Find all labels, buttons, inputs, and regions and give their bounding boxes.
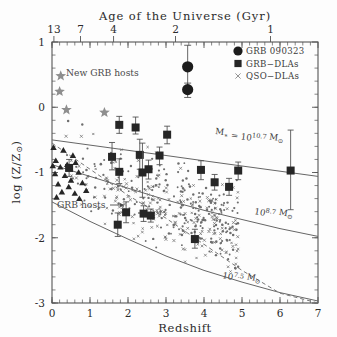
qso-dla-point	[190, 232, 192, 234]
top-tick-label: 1	[267, 23, 274, 35]
qso-dla-point	[218, 213, 220, 215]
qso-dla-point	[177, 186, 179, 188]
qso-dla-point	[137, 176, 139, 178]
qso-dla-point	[66, 154, 68, 156]
qso-dla-point	[123, 198, 125, 200]
x-tick-label: 2	[125, 307, 132, 319]
qso-dla-point	[235, 223, 237, 225]
qso-dla-point	[163, 168, 165, 170]
qso-dla-point	[160, 226, 162, 228]
y-tick-label: -2	[35, 232, 45, 244]
qso-dla-point	[151, 198, 153, 200]
qso-dla-point	[220, 212, 222, 214]
qso-dla-point	[227, 223, 229, 225]
qso-dla-point	[211, 209, 213, 211]
grb-dla-marker	[140, 210, 148, 218]
qso-dla-point	[201, 238, 203, 240]
qso-dla-point	[214, 202, 217, 205]
qso-dla-point	[233, 207, 235, 209]
qso-dla-point	[195, 224, 197, 226]
qso-dla-point	[220, 242, 222, 244]
qso-dla-point	[158, 169, 160, 171]
qso-dla-point	[180, 206, 182, 208]
qso-dla-point	[95, 177, 97, 179]
grb-dla-marker	[287, 167, 295, 175]
qso-dla-point	[93, 163, 95, 165]
qso-dla-point	[204, 219, 206, 221]
metallicity-redshift-chart: Age of the Universe (Gyr) 137421 0123456…	[0, 0, 337, 337]
qso-dla-point	[208, 213, 210, 215]
qso-dla-point	[188, 183, 190, 185]
qso-dla-point	[225, 222, 227, 224]
qso-dla-point	[85, 169, 88, 172]
qso-dla-point	[178, 228, 180, 230]
qso-dla-point	[164, 209, 166, 211]
qso-dla-point	[180, 190, 182, 192]
grb-dla-marker	[191, 235, 199, 243]
legend-label: GRB−DLAs	[246, 59, 299, 69]
qso-dla-point	[229, 254, 231, 256]
qso-dla-point	[202, 227, 204, 229]
qso-dla-point	[165, 173, 167, 175]
grb-dla-marker	[211, 178, 219, 186]
qso-dla-point	[195, 208, 197, 210]
qso-dla-point	[184, 217, 187, 220]
qso-dla-point	[94, 186, 96, 188]
qso-dla-point	[203, 217, 205, 219]
y-tick-label: 0	[38, 101, 45, 113]
qso-dla-point	[182, 214, 184, 216]
qso-dla-point	[192, 201, 194, 203]
qso-dla-point	[100, 163, 103, 166]
qso-dla-point	[215, 254, 217, 256]
qso-dla-point	[175, 215, 177, 217]
qso-dla-point	[219, 219, 221, 221]
grb-dla-marker	[225, 183, 233, 191]
grb-dla-marker	[138, 169, 146, 177]
qso-dla-point	[147, 197, 149, 199]
qso-dla-point	[163, 211, 165, 213]
qso-dla-point	[185, 177, 187, 179]
qso-dla-point	[82, 157, 84, 159]
qso-dla-point	[234, 267, 237, 270]
grb-dla-marker	[147, 212, 155, 220]
grb-dla-marker	[108, 153, 116, 161]
grb-dla-marker	[115, 168, 123, 176]
qso-dla-point	[177, 162, 180, 165]
qso-dla-point	[189, 185, 192, 188]
qso-dla-point	[200, 225, 202, 227]
qso-dla-point	[220, 210, 222, 212]
qso-dla-point	[177, 171, 179, 173]
qso-dla-point	[229, 232, 232, 235]
qso-dla-point	[237, 212, 239, 214]
qso-dla-point	[158, 183, 160, 185]
qso-dla-point	[163, 190, 166, 193]
qso-dla-point	[77, 182, 79, 184]
qso-dla-point	[86, 177, 88, 179]
qso-dla-point	[195, 201, 197, 203]
qso-dla-point	[117, 202, 119, 204]
qso-dla-point	[182, 229, 184, 231]
qso-dla-point	[223, 193, 225, 195]
qso-dla-point	[155, 247, 157, 249]
legend-label: GRB 090323	[246, 46, 305, 56]
qso-dla-point	[222, 204, 224, 206]
y-axis-label-sub: ⊙	[15, 146, 24, 153]
qso-dla-point	[181, 234, 184, 237]
qso-dla-point	[226, 239, 228, 241]
qso-dla-point	[87, 175, 90, 178]
qso-dla-point	[208, 251, 210, 253]
qso-dla-point	[168, 232, 171, 235]
qso-dla-point	[158, 186, 160, 188]
qso-dla-point	[237, 265, 239, 267]
qso-dla-point	[82, 171, 84, 173]
qso-dla-point	[221, 224, 223, 226]
qso-dla-point	[107, 181, 110, 184]
figure-panel: Age of the Universe (Gyr) 137421 0123456…	[0, 0, 337, 337]
y-tick-label: 1	[38, 36, 45, 48]
qso-dla-point	[151, 158, 153, 160]
qso-dla-point	[182, 225, 184, 227]
qso-dla-point	[198, 192, 200, 194]
x-tick-label: 5	[239, 307, 246, 319]
qso-dla-point	[179, 199, 181, 201]
qso-dla-point	[215, 199, 217, 201]
